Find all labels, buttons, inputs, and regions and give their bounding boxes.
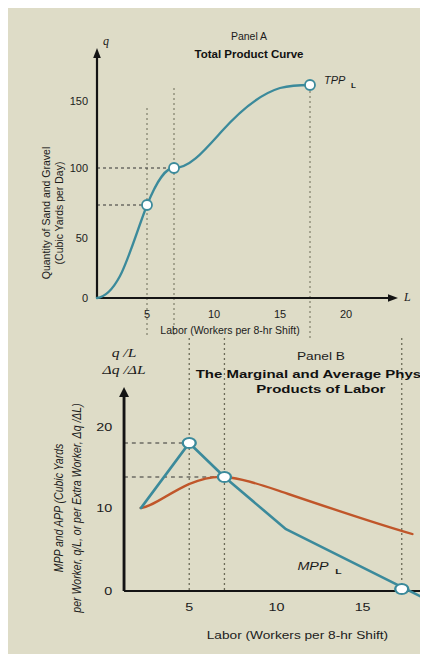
panel-b-ytick-20: 20 [96,421,112,434]
tpp-curve-label-subscript: L [351,81,356,90]
panel-a-x-axis [97,294,398,302]
panel-b-y-axis-label-line1: MPP and APP (Cubic Yards [50,444,66,572]
panel-b-x-axis-label: Labor (Workers per 8-hr Shift) [207,630,388,642]
panel-b-y-axis-symbol-line2: Δq /ΔL [101,364,146,377]
panel-a-y-axis-label-line2: (Cubic Yards per Day) [53,162,65,265]
panel-b-ytick-0: 0 [104,585,112,598]
panel-a-xtick-20: 20 [340,308,352,320]
mpp-curve [141,443,420,598]
panel-b-title-line2: Products of Labor [256,383,385,396]
panel-b-y-axis-symbol-line1: q /L [112,347,137,360]
panel-a-x-axis-symbol: L [403,290,411,304]
panel-a-ytick-0: 0 [82,292,88,304]
panel-b-y-axis-label-line2: per Worker, q/L, or per Extra Worker, Δq… [69,403,85,613]
panel-b-data-markers [183,438,409,594]
mpp-curve-label-subscript: L [335,567,342,576]
figure-container: 0 50 100 150 5 10 15 20 q L Labor (Worke… [8,8,420,654]
panel-b-chart: 0 10 20 5 10 15 20 q /L Δq /ΔL L Labor (… [50,338,420,642]
panel-a-xtick-10: 10 [208,308,220,320]
panel-a-xtick-15: 15 [274,308,286,320]
panel-b-x-axis [124,587,420,595]
panel-b-ytick-10: 10 [96,502,112,515]
panel-a-title: Total Product Curve [194,48,303,60]
panel-b-chart-wrapper: 0 10 20 5 10 15 20 q /L Δq /ΔL L Labor (… [8,338,420,654]
panel-a-panel-label: Panel A [231,30,267,42]
tpp-curve [97,85,310,298]
panel-a-ytick-150: 150 [70,95,88,107]
panel-b: 0 10 20 5 10 15 20 q /L Δq /ΔL L Labor (… [8,338,420,654]
panel-a-ytick-50: 50 [76,232,88,244]
panel-a-xtick-5: 5 [144,308,150,320]
panel-a: 0 50 100 150 5 10 15 20 q L Labor (Worke… [8,8,420,338]
app-curve [141,477,412,534]
panel-b-panel-label: Panel B [297,351,345,363]
panel-a-data-markers [142,80,315,210]
panel-a-y-axis-symbol: q [103,34,109,48]
panel-b-xtick-10: 10 [269,601,285,614]
panel-b-xtick-15: 15 [355,601,371,614]
panel-a-ytick-100: 100 [70,162,88,174]
panel-a-x-axis-label: Labor (Workers per 8-hr Shift) [160,324,299,336]
panel-b-xtick-5: 5 [185,601,193,614]
panel-b-title-line1: The Marginal and Average Physical [196,368,420,381]
mpp-curve-label: MPP [297,560,329,573]
panel-a-chart: 0 50 100 150 5 10 15 20 q L Labor (Worke… [8,8,420,338]
tpp-curve-label: TPP [324,74,346,86]
panel-a-y-axis [93,48,101,298]
panel-a-y-axis-label-line1: Quantity of Sand and Gravel [40,147,52,280]
panel-b-y-axis [119,387,129,591]
panel-b-horizontal-guides [124,443,224,477]
